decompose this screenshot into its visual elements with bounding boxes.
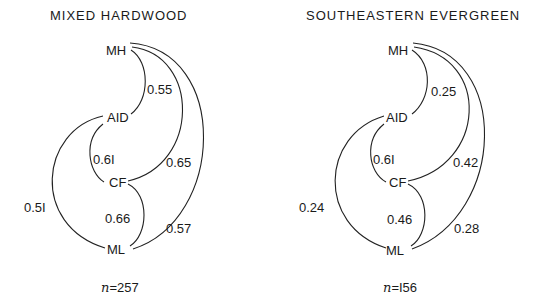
- edge-label-aid-cf: 0.6I: [93, 153, 115, 167]
- diagram-title: MIXED HARDWOOD: [50, 8, 188, 23]
- edge-label-mh-cf: 0.42: [453, 156, 478, 170]
- diagram-mixed-hardwood: MIXED HARDWOOD MH AID CF ML 0.55 0.6I 0.…: [0, 0, 266, 307]
- edge-label-mh-cf: 0.65: [166, 156, 191, 170]
- node-aid: AID: [386, 111, 408, 125]
- edge-mh-aid: [131, 50, 145, 114]
- n-value: =257: [109, 280, 138, 295]
- sample-size: n=257: [101, 280, 139, 295]
- edge-label-aid-cf: 0.6I: [373, 153, 395, 167]
- edge-label-mh-aid: 0.55: [147, 83, 172, 97]
- edge-cf-ml: [128, 184, 144, 246]
- node-cf: CF: [109, 176, 126, 190]
- diagram-southeastern-evergreen: SOUTHEASTERN EVERGREEN MH AID CF ML 0.25…: [266, 0, 533, 307]
- edge-label-cf-ml: 0.46: [387, 213, 412, 227]
- sample-size: n=I56: [383, 280, 417, 295]
- edge-label-mh-ml: 0.57: [166, 222, 191, 236]
- edge-mh-aid: [412, 50, 427, 114]
- edge-label-aid-ml: 0.24: [299, 201, 324, 215]
- node-mh: MH: [388, 44, 408, 58]
- edge-aid-ml: [52, 116, 105, 248]
- node-mh: MH: [106, 44, 126, 58]
- edge-lines: [0, 0, 266, 307]
- edge-label-mh-ml: 0.28: [454, 222, 479, 236]
- node-ml: ML: [107, 243, 125, 257]
- edge-label-cf-ml: 0.66: [105, 212, 130, 226]
- edge-label-aid-ml: 0.5I: [24, 201, 46, 215]
- edge-mh-ml: [412, 43, 485, 249]
- edge-label-mh-aid: 0.25: [431, 85, 456, 99]
- diagram-title: SOUTHEASTERN EVERGREEN: [306, 8, 520, 23]
- node-aid: AID: [107, 111, 129, 125]
- n-value: =I56: [391, 280, 417, 295]
- edge-mh-ml: [130, 43, 204, 249]
- node-ml: ML: [386, 244, 404, 258]
- edge-aid-ml: [335, 116, 386, 248]
- node-cf: CF: [389, 176, 406, 190]
